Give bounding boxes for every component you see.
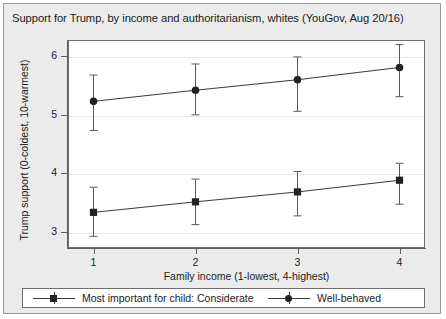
chart-legend: Most important for child: ConsiderateWel… <box>22 288 425 308</box>
data-point-marker <box>192 86 200 94</box>
legend-marker <box>285 295 292 302</box>
series-layer <box>68 40 425 248</box>
chart-screenshot: Support for Trump, by income and authori… <box>0 0 446 319</box>
y-axis-title: Trump support (0-coldest, 10-warmest) <box>18 40 30 260</box>
data-point-marker <box>396 64 404 72</box>
series-line <box>94 67 400 101</box>
y-axis-tick <box>61 56 67 57</box>
x-axis-tick <box>400 249 401 254</box>
legend-circle-marker-icon <box>268 292 310 304</box>
y-axis-tick-label: 6 <box>35 49 57 61</box>
y-axis-tick-label-wrap: 3 <box>33 232 57 233</box>
series-line <box>94 180 400 212</box>
series-1 <box>90 163 404 236</box>
x-axis-tick-label: 4 <box>385 256 415 268</box>
x-axis-tick-label: 3 <box>283 256 313 268</box>
data-point-marker <box>192 198 199 205</box>
x-axis-tick-label: 1 <box>79 256 109 268</box>
data-point-marker <box>396 177 403 184</box>
x-axis-tick <box>298 249 299 254</box>
legend-entry: Most important for child: Considerate <box>33 289 254 307</box>
legend-marker <box>50 295 57 302</box>
y-axis-tick-label: 3 <box>35 225 57 237</box>
legend-entry: Well-behaved <box>268 289 381 307</box>
y-axis-tick <box>61 115 67 116</box>
data-point-marker <box>90 209 97 216</box>
x-axis-tick <box>196 249 197 254</box>
y-axis-tick-label-wrap: 4 <box>33 173 57 174</box>
y-axis-tick <box>61 232 67 233</box>
y-axis-tick-label: 4 <box>35 166 57 178</box>
legend-label: Most important for child: Considerate <box>82 292 254 304</box>
x-axis-tick-label: 2 <box>181 256 211 268</box>
y-axis-tick-label: 5 <box>35 108 57 120</box>
x-axis-line <box>67 248 426 249</box>
x-axis-tick <box>94 249 95 254</box>
y-axis-tick <box>61 173 67 174</box>
legend-square-marker-icon <box>33 292 75 304</box>
y-axis-tick-label-wrap: 6 <box>33 56 57 57</box>
legend-label: Well-behaved <box>317 292 381 304</box>
y-axis-tick-label-wrap: 5 <box>33 115 57 116</box>
data-point-marker <box>294 76 302 84</box>
data-point-marker <box>90 98 98 106</box>
data-point-marker <box>294 188 301 195</box>
series-2 <box>90 45 404 131</box>
x-axis-title: Family income (1-lowest, 4-highest) <box>68 270 425 282</box>
chart-title: Support for Trump, by income and authori… <box>12 12 404 24</box>
